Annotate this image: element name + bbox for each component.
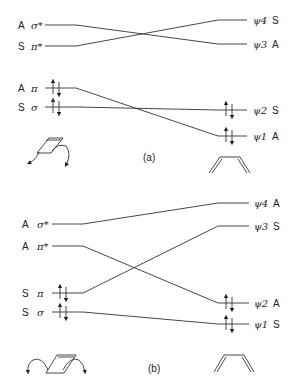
orbital-name: π xyxy=(30,83,38,94)
orbital-name: σ* xyxy=(37,219,49,230)
symmetry-label: A xyxy=(272,39,279,50)
panel-caption: (a) xyxy=(143,152,155,163)
left-orbital: Sσ xyxy=(22,305,83,319)
right-orbital: ψ2S xyxy=(218,103,279,117)
orbital-name: π* xyxy=(36,241,49,252)
orbital-name: ψ2 xyxy=(254,298,268,309)
right-orbital: ψ4A xyxy=(218,198,280,209)
right-orbital: ψ2A xyxy=(218,296,280,310)
correlation-line xyxy=(83,226,218,293)
symmetry-label: S xyxy=(22,288,29,299)
orbital-name: σ xyxy=(37,307,45,318)
cyclobutene-conrotatory-icon xyxy=(29,138,69,165)
symmetry-label: A xyxy=(22,219,29,230)
symmetry-label: S xyxy=(22,307,29,318)
symmetry-label: S xyxy=(272,15,279,26)
symmetry-label: S xyxy=(18,102,25,113)
symmetry-label: A xyxy=(272,131,279,142)
correlation-line xyxy=(83,246,218,303)
panel-a: Aσ*Sπ*AπSσψ4Sψ3Aψ2Sψ1A(a) xyxy=(18,15,279,164)
orbital-name: ψ1 xyxy=(254,319,268,330)
panel-caption: (b) xyxy=(148,363,160,374)
butadiene-icon-b xyxy=(214,355,254,372)
orbital-name: σ* xyxy=(31,20,43,31)
butadiene-icon-a xyxy=(209,157,250,173)
right-orbital: ψ3A xyxy=(218,39,279,50)
left-orbital: Sπ xyxy=(22,286,83,300)
left-orbital: Aπ xyxy=(18,81,76,95)
symmetry-label: S xyxy=(273,319,280,330)
orbital-correlation-diagram: Aσ*Sπ*AπSσψ4Sψ3Aψ2Sψ1A(a)Aσ*Aπ*SπSσψ4Aψ3… xyxy=(0,0,293,391)
cyclobutene-disrotatory-icon xyxy=(28,355,85,373)
symmetry-label: A xyxy=(273,298,280,309)
left-orbital: Aσ* xyxy=(18,20,76,31)
correlation-line xyxy=(76,88,218,136)
correlation-line xyxy=(76,107,218,110)
right-orbital: ψ1S xyxy=(218,317,280,331)
correlation-line xyxy=(83,312,218,324)
right-orbital: ψ4S xyxy=(218,15,279,26)
panel-b: Aσ*Aπ*SπSσψ4Aψ3Sψ2Aψ1S(b) xyxy=(22,198,280,375)
orbital-name: π* xyxy=(30,41,43,52)
symmetry-label: A xyxy=(22,241,29,252)
correlation-line xyxy=(76,25,218,44)
orbital-name: ψ1 xyxy=(253,131,267,142)
orbital-name: ψ3 xyxy=(253,39,267,50)
orbital-name: ψ4 xyxy=(254,198,268,209)
symmetry-label: A xyxy=(18,83,25,94)
correlation-line xyxy=(76,20,218,46)
right-orbital: ψ3S xyxy=(218,221,280,232)
orbital-name: π xyxy=(36,288,44,299)
right-orbital: ψ1A xyxy=(218,129,279,143)
symmetry-label: A xyxy=(18,20,25,31)
symmetry-label: A xyxy=(273,198,280,209)
orbital-name: ψ4 xyxy=(253,15,267,26)
left-orbital: Sσ xyxy=(18,100,76,114)
left-orbital: Aπ* xyxy=(22,241,83,252)
symmetry-label: S xyxy=(18,41,25,52)
orbital-name: ψ3 xyxy=(254,221,268,232)
orbital-name: ψ2 xyxy=(253,105,267,116)
orbital-name: σ xyxy=(31,102,39,113)
correlation-line xyxy=(83,203,218,224)
left-orbital: Sπ* xyxy=(18,41,76,52)
symmetry-label: S xyxy=(273,221,280,232)
left-orbital: Aσ* xyxy=(22,219,83,230)
symmetry-label: S xyxy=(272,105,279,116)
